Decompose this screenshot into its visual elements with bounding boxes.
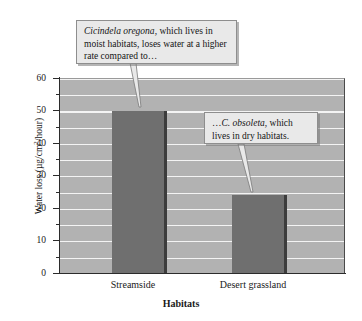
callout-cicindela-oregona: Cicindela oregona, which lives in moist …	[76, 20, 237, 64]
bar-chart-figure: 60 50 40 30 20 10 0 Water loss (µg/cm2/h…	[0, 0, 362, 321]
leader-line-callout-2	[238, 144, 253, 192]
leader-line-callout-1	[130, 63, 141, 107]
callout-c-obsoleta: …C. obsoleta, which lives in dry habitat…	[204, 112, 318, 144]
callout-1-species: Cicindela oregona	[84, 26, 155, 36]
callout-2-species: C. obsoleta	[222, 118, 265, 128]
callout-2-lead: …	[212, 118, 222, 128]
